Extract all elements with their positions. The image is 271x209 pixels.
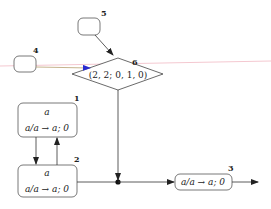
- node-2: 2 a a/a → a; 0: [18, 154, 80, 197]
- node-4-number: 4: [33, 45, 39, 55]
- node-6-tuple: (2, 2; 0, 1, 0): [89, 70, 148, 80]
- edge-5-to-6: [95, 35, 113, 55]
- node-3-line1: a/a → a; 0: [181, 177, 225, 187]
- node-1: 1 a a/a → a; 0: [18, 93, 80, 137]
- node-5: 5: [78, 8, 107, 35]
- state-diagram: 5 4 6 (2, 2; 0, 1, 0) 1 a a/a → a; 0 2 a…: [0, 0, 271, 209]
- node-1-number: 1: [74, 93, 80, 103]
- node-4: 4: [14, 45, 39, 72]
- node-6-number: 6: [132, 57, 138, 67]
- node-2-line2: a/a → a; 0: [25, 184, 69, 194]
- node-1-line2: a/a → a; 0: [25, 123, 69, 133]
- node-3-number: 3: [228, 163, 234, 173]
- node-6: 6 (2, 2; 0, 1, 0): [72, 57, 163, 90]
- node-3: 3 a/a → a; 0: [175, 163, 234, 190]
- edge-4-to-6: [36, 67, 90, 68]
- node-1-line1: a: [44, 107, 49, 117]
- node-2-number: 2: [74, 154, 80, 164]
- node-5-number: 5: [101, 8, 107, 18]
- node-2-line1: a: [44, 168, 49, 178]
